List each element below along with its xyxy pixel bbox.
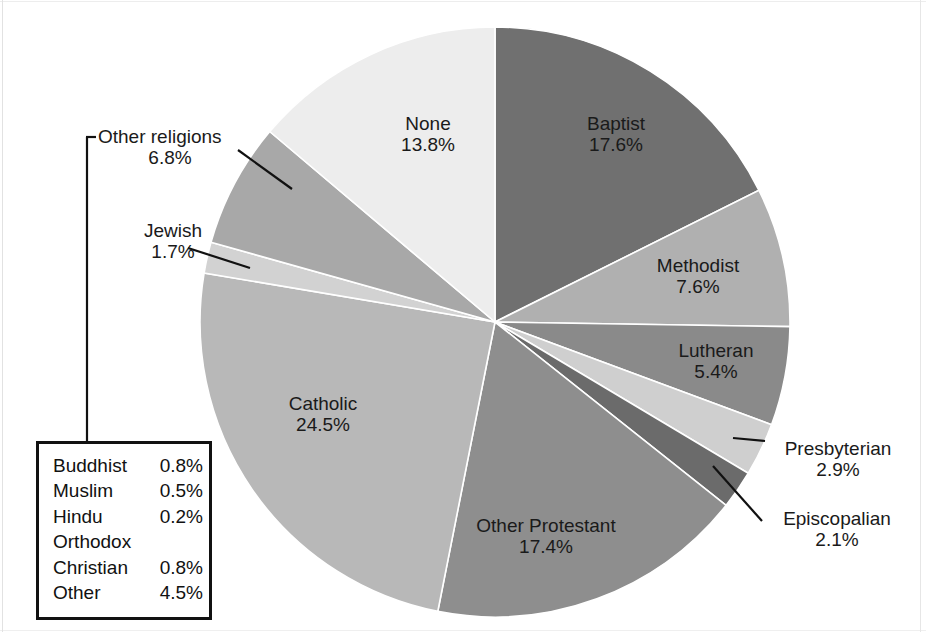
slice-label-none: None 13.8% <box>373 113 483 156</box>
slice-label-methodist-name: Methodist <box>633 255 763 276</box>
breakdown-row-name: Hindu <box>53 504 103 529</box>
slice-label-other-protestant-name: Other Protestant <box>441 515 651 536</box>
slice-label-jewish-name: Jewish <box>118 220 228 241</box>
slice-label-baptist-name: Baptist <box>556 113 676 134</box>
breakdown-row-name: Other <box>53 580 101 605</box>
breakdown-row: Other4.5% <box>53 580 203 605</box>
slice-label-other-religions-name: Other religions <box>98 126 242 147</box>
slice-label-episcopalian-value: 2.1% <box>762 529 912 550</box>
slice-label-lutheran-name: Lutheran <box>657 340 775 361</box>
slice-label-baptist: Baptist 17.6% <box>556 113 676 156</box>
breakdown-row: Hindu0.2% <box>53 504 203 529</box>
slice-label-other-protestant-value: 17.4% <box>441 536 651 557</box>
breakdown-row: Orthodox <box>53 529 203 554</box>
breakdown-row-value: 0.8% <box>151 453 203 478</box>
breakdown-row: Muslim0.5% <box>53 478 203 503</box>
breakdown-row: Christian0.8% <box>53 555 203 580</box>
slice-label-methodist-value: 7.6% <box>633 276 763 297</box>
slice-label-none-value: 13.8% <box>373 134 483 155</box>
pie-chart-figure: None 13.8% Baptist 17.6% Methodist 7.6% … <box>0 0 926 632</box>
breakdown-row-name: Muslim <box>53 478 113 503</box>
slice-label-other-protestant: Other Protestant 17.4% <box>441 515 651 558</box>
breakdown-row-value: 0.2% <box>151 504 203 529</box>
breakdown-row-value: 0.5% <box>151 478 203 503</box>
slice-label-none-name: None <box>373 113 483 134</box>
other-religions-breakdown-box: Buddhist0.8%Muslim0.5%Hindu0.2%OrthodoxC… <box>36 441 212 620</box>
slice-label-other-religions: Other religions 6.8% <box>98 126 242 169</box>
slice-label-other-religions-value: 6.8% <box>98 147 242 168</box>
slice-label-baptist-value: 17.6% <box>556 134 676 155</box>
slice-label-catholic-value: 24.5% <box>258 414 388 435</box>
slice-label-presbyterian: Presbyterian 2.9% <box>763 438 913 481</box>
breakdown-row-value: 4.5% <box>151 580 203 605</box>
breakdown-row: Buddhist0.8% <box>53 453 203 478</box>
slice-label-presbyterian-value: 2.9% <box>763 459 913 480</box>
breakdown-list: Buddhist0.8%Muslim0.5%Hindu0.2%OrthodoxC… <box>53 453 203 606</box>
slice-label-presbyterian-name: Presbyterian <box>763 438 913 459</box>
breakdown-row-name: Christian <box>53 555 128 580</box>
slice-label-catholic: Catholic 24.5% <box>258 393 388 436</box>
slice-label-jewish: Jewish 1.7% <box>118 220 228 263</box>
slice-label-catholic-name: Catholic <box>258 393 388 414</box>
slice-label-episcopalian: Episcopalian 2.1% <box>762 508 912 551</box>
breakdown-row-name: Orthodox <box>53 529 131 554</box>
slice-label-episcopalian-name: Episcopalian <box>762 508 912 529</box>
slice-label-lutheran-value: 5.4% <box>657 361 775 382</box>
slice-label-lutheran: Lutheran 5.4% <box>657 340 775 383</box>
breakdown-row-name: Buddhist <box>53 453 127 478</box>
slice-label-methodist: Methodist 7.6% <box>633 255 763 298</box>
breakdown-row-value: 0.8% <box>151 555 203 580</box>
slice-label-jewish-value: 1.7% <box>118 241 228 262</box>
